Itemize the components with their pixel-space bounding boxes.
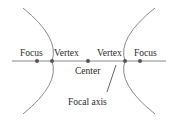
center-label: Center (75, 66, 101, 76)
right-vertex-label: Vertex (97, 48, 122, 58)
focal-axis-pointer (107, 65, 116, 92)
focal-axis-label: Focal axis (68, 97, 107, 107)
right-vertex-point (123, 59, 127, 63)
left-vertex-point (50, 59, 54, 63)
right-focus-point (138, 59, 142, 63)
hyperbola-diagram: Focus Vertex Vertex Focus Center Focal a… (0, 0, 173, 124)
right-focus-label: Focus (134, 48, 157, 58)
center-point (86, 59, 90, 63)
left-focus-point (35, 59, 39, 63)
left-vertex-label: Vertex (54, 48, 79, 58)
left-focus-label: Focus (20, 48, 43, 58)
